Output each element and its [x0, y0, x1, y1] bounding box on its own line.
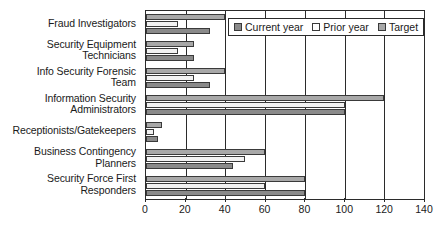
- bar-prior: [146, 156, 245, 162]
- category-label-line: Planners: [34, 158, 136, 170]
- axis-tick-label: 120: [375, 203, 393, 215]
- axis-tick-label: 40: [219, 203, 231, 215]
- category-label-line: Fraud Investigators: [48, 18, 136, 30]
- legend-item[interactable]: Target: [378, 21, 418, 33]
- axis-tick: [424, 198, 425, 202]
- bar-prior: [146, 75, 194, 81]
- legend-item[interactable]: Current year: [234, 21, 303, 33]
- bar-current: [146, 82, 210, 88]
- category-label-line: Security Force First: [47, 173, 136, 185]
- axis-tick-label: 20: [179, 203, 191, 215]
- category-label-line: Administrators: [45, 104, 136, 116]
- category-label: Security EquipmentTechnicians: [0, 37, 140, 64]
- legend-swatch-icon: [312, 23, 320, 31]
- bar-prior: [146, 183, 265, 189]
- bar-current: [146, 28, 210, 34]
- category-label: Security Force FirstResponders: [0, 171, 140, 198]
- axis-tick-label: 140: [415, 203, 433, 215]
- category-label-line: Business Contingency: [34, 146, 136, 158]
- axis-tick: [145, 198, 146, 202]
- legend-label: Prior year: [323, 21, 369, 33]
- bar-current: [146, 136, 158, 142]
- bar-prior: [146, 102, 345, 108]
- bar-group: [146, 118, 424, 145]
- category-label-line: Technicians: [47, 50, 136, 62]
- axis-tick: [384, 198, 385, 202]
- legend-swatch-icon: [234, 23, 242, 31]
- category-label: Information SecurityAdministrators: [0, 91, 140, 118]
- bar-group: [146, 38, 424, 65]
- bar-group: [146, 92, 424, 119]
- axis-tick-label: 100: [336, 203, 354, 215]
- bar-group: [146, 65, 424, 92]
- axis-tick: [225, 198, 226, 202]
- bar-current: [146, 190, 305, 196]
- bar-chart: Fraud InvestigatorsSecurity EquipmentTec…: [0, 0, 438, 244]
- legend-label: Target: [389, 21, 418, 33]
- value-axis: 020406080100120140: [145, 198, 424, 222]
- bar-prior: [146, 48, 178, 54]
- category-label-line: Team: [37, 77, 136, 89]
- bar-target: [146, 176, 305, 182]
- bar-prior: [146, 21, 178, 27]
- bar-groups: [146, 11, 424, 199]
- bar-target: [146, 95, 384, 101]
- bar-target: [146, 68, 225, 74]
- category-axis-labels: Fraud InvestigatorsSecurity EquipmentTec…: [0, 10, 140, 198]
- category-label-line: Receptionists/Gatekeepers: [12, 125, 136, 137]
- axis-tick: [304, 198, 305, 202]
- bar-current: [146, 55, 194, 61]
- bar-prior: [146, 129, 154, 135]
- category-label: Business ContingencyPlanners: [0, 144, 140, 171]
- plot-area: [145, 10, 425, 200]
- bar-target: [146, 41, 194, 47]
- chart-legend: Current yearPrior yearTarget: [228, 18, 424, 36]
- bar-target: [146, 149, 265, 155]
- legend-item[interactable]: Prior year: [312, 21, 369, 33]
- bar-group: [146, 172, 424, 199]
- bar-current: [146, 109, 345, 115]
- bar-group: [146, 145, 424, 172]
- axis-tick: [265, 198, 266, 202]
- category-label-line: Responders: [47, 185, 136, 197]
- axis-tick-label: 80: [299, 203, 311, 215]
- bar-current: [146, 163, 233, 169]
- axis-tick: [185, 198, 186, 202]
- category-label: Info Security ForensicTeam: [0, 64, 140, 91]
- bar-target: [146, 122, 162, 128]
- axis-tick: [344, 198, 345, 202]
- legend-label: Current year: [245, 21, 303, 33]
- category-label: Fraud Investigators: [0, 10, 140, 37]
- bar-target: [146, 14, 225, 20]
- axis-tick-label: 60: [259, 203, 271, 215]
- legend-swatch-icon: [378, 23, 386, 31]
- axis-tick-label: 0: [142, 203, 148, 215]
- category-label: Receptionists/Gatekeepers: [0, 117, 140, 144]
